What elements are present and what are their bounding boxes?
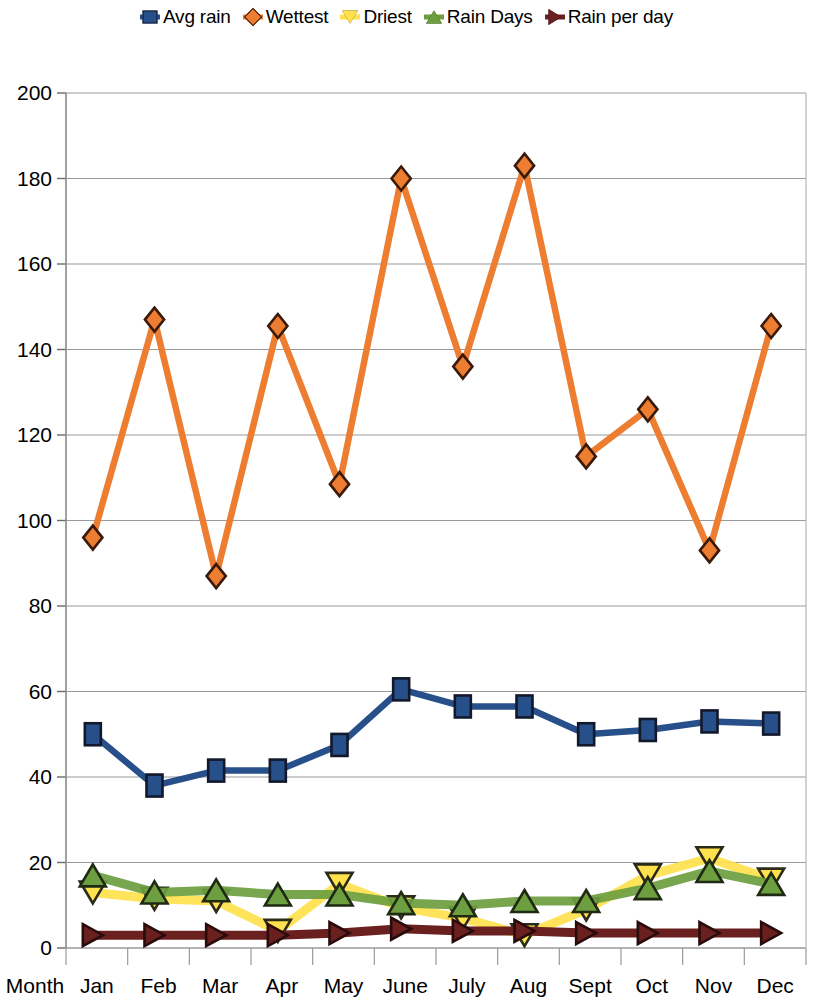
data-point <box>208 760 224 782</box>
data-point <box>83 526 102 550</box>
y-tick-label: 0 <box>40 936 52 959</box>
data-point <box>83 924 103 946</box>
y-tick-label: 200 <box>17 81 52 104</box>
y-tick-label: 140 <box>17 338 52 361</box>
data-point <box>332 734 348 756</box>
data-point <box>515 154 534 178</box>
data-point <box>455 695 471 717</box>
data-point <box>147 775 163 797</box>
x-tick-label-dec: Dec <box>756 974 793 997</box>
series-rain-per-day <box>83 918 781 946</box>
data-point <box>207 564 226 588</box>
data-point <box>453 355 472 379</box>
data-point <box>576 922 596 944</box>
x-tick-label-mar: Mar <box>202 974 238 997</box>
data-point <box>330 922 350 944</box>
series-avg-rain <box>85 678 779 796</box>
rainfall-line-chart: Avg rainWettestDriestRain DaysRain per d… <box>0 0 813 1005</box>
data-point <box>638 922 658 944</box>
y-tick-label: 80 <box>29 594 52 617</box>
x-tick-label-nov: Nov <box>695 974 733 997</box>
y-tick-label: 40 <box>29 765 52 788</box>
series-line <box>93 929 771 935</box>
data-point <box>578 723 594 745</box>
data-point <box>270 760 286 782</box>
y-tick-label: 20 <box>29 851 52 874</box>
x-tick-label-sept: Sept <box>569 974 612 997</box>
data-point <box>702 710 718 732</box>
x-tick-label-june: June <box>382 974 428 997</box>
series-wettest <box>83 154 781 588</box>
data-point <box>517 695 533 717</box>
y-tick-label: 60 <box>29 680 52 703</box>
x-tick-label-july: July <box>448 974 486 997</box>
y-tick-label: 180 <box>17 167 52 190</box>
series-line <box>93 689 771 785</box>
y-tick-label: 120 <box>17 423 52 446</box>
data-point <box>391 918 411 940</box>
x-tick-label-aug: Aug <box>510 974 547 997</box>
x-tick-label-oct: Oct <box>635 974 668 997</box>
data-point <box>393 678 409 700</box>
series-line <box>93 858 771 935</box>
data-point <box>700 922 720 944</box>
x-tick-label-feb: Feb <box>140 974 176 997</box>
data-point <box>640 719 656 741</box>
x-axis: MonthJanFebMarAprMayJuneJulyAugSeptOctNo… <box>6 948 806 997</box>
x-tick-label-may: May <box>324 974 364 997</box>
data-point <box>762 314 781 338</box>
data-point <box>85 723 101 745</box>
data-point <box>763 713 779 735</box>
x-axis-corner-label: Month <box>6 974 64 997</box>
y-tick-label: 160 <box>17 252 52 275</box>
x-tick-label-jan: Jan <box>80 974 114 997</box>
data-point <box>206 924 226 946</box>
x-tick-label-apr: Apr <box>265 974 298 997</box>
data-point <box>761 922 781 944</box>
y-tick-label: 100 <box>17 509 52 532</box>
series-line <box>93 166 771 576</box>
data-point <box>145 308 164 332</box>
plot-area: 020406080100120140160180200MonthJanFebMa… <box>0 0 813 1005</box>
data-point <box>392 167 411 191</box>
data-point <box>145 924 165 946</box>
